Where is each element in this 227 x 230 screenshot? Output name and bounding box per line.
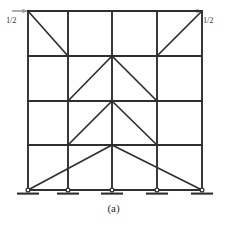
brace-story4-left	[28, 11, 68, 56]
figure-caption: (a)	[0, 203, 227, 214]
brace-story3-left	[68, 56, 112, 101]
brace-story3-right	[112, 56, 157, 101]
brace-story4-right	[157, 11, 202, 56]
brace-story2-right	[112, 101, 157, 145]
frame-diagram-svg	[0, 0, 227, 230]
structural-frame-figure: 1/2 1/2 (a)	[0, 0, 227, 230]
brace-story1-left	[28, 145, 112, 190]
load-label-left: 1/2	[6, 16, 16, 25]
load-label-right: 1/2	[203, 16, 213, 25]
brace-story2-left	[68, 101, 112, 145]
